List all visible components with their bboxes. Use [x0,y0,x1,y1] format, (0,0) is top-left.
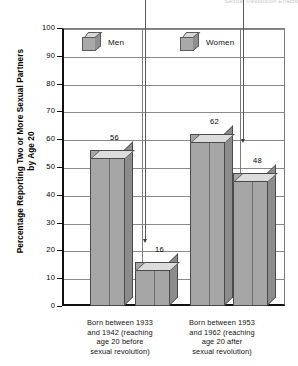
cube-face-front [180,37,194,51]
x-category-label-2-line-2: and 1962 (reaching [163,328,281,338]
bar-side-face [267,164,276,306]
legend-cube-icon-men [82,32,103,52]
bar-front-face [90,150,125,306]
x-category-label-1-line-3: age 20 before [61,337,179,347]
x-category-label-1-line-1: Born between 1933 [61,318,179,328]
x-category-label-2: Born between 1953and 1962 (reachingage 2… [163,318,281,356]
y-tick-label-80: 80 [29,79,55,88]
leader-line-group2-women-arrowhead [241,139,245,143]
cube-face-side [95,32,101,51]
y-tick-label-30: 30 [29,218,55,227]
y-tick-mark-20 [57,250,62,251]
bar-women-group1 [135,262,170,306]
top-cutoff-text: Sexual Revolution Effects [170,0,298,5]
bar-center-seam [109,151,110,305]
x-category-label-2-line-1: Born between 1953 [163,318,281,328]
y-tick-label-50: 50 [29,162,55,171]
bar-side-face [124,142,133,306]
y-tick-mark-60 [57,139,62,140]
value-label-women-group2: 48 [235,156,280,165]
y-tick-mark-70 [57,111,62,112]
leader-line-group1-women [145,0,146,239]
bar-center-seam [209,135,210,305]
y-tick-label-0: 0 [29,301,55,310]
leader-line-group2-women [243,0,244,139]
x-category-label-2-line-4: sexual revolution) [163,347,281,357]
cube-face-front [82,37,96,51]
chart-container: Sexual Revolution Effects Percentage Rep… [0,0,298,366]
y-tick-label-60: 60 [29,134,55,143]
value-label-men-group2: 62 [192,117,237,126]
bar-center-seam [252,174,253,305]
bar-side-face [169,253,178,306]
y-tick-mark-30 [57,223,62,224]
bar-women-group2 [233,173,268,306]
bar-men-group2 [190,134,225,306]
value-label-men-group1: 56 [92,133,137,142]
legend-item-men[interactable]: Men [82,32,124,52]
bar-men-group1 [90,150,125,306]
x-category-label-1-line-4: sexual revolution) [61,347,179,357]
y-tick-mark-0 [57,306,62,307]
bar-side-face [224,125,233,306]
x-category-label-1-line-2: and 1942 (reaching [61,328,179,338]
x-category-label-1: Born between 1933and 1942 (reachingage 2… [61,318,179,356]
y-tick-label-70: 70 [29,106,55,115]
gridline-100 [64,29,284,30]
legend-cube-icon-women [180,32,201,52]
value-label-women-group1: 16 [137,245,182,254]
y-tick-mark-10 [57,278,62,279]
gridline-80 [64,85,284,86]
bar-front-face [233,173,268,306]
y-tick-label-100: 100 [29,23,55,32]
y-tick-label-90: 90 [29,51,55,60]
bar-front-face [190,134,225,306]
y-tick-label-10: 10 [29,273,55,282]
y-tick-mark-80 [57,84,62,85]
y-tick-label-40: 40 [29,190,55,199]
y-tick-label-20: 20 [29,245,55,254]
legend-item-women[interactable]: Women [180,32,234,52]
legend-label-men: Men [108,38,124,47]
y-tick-mark-100 [57,28,62,29]
x-category-label-2-line-3: age 20 after [163,337,281,347]
gridline-90 [64,57,284,58]
y-tick-mark-50 [57,167,62,168]
cube-face-side [193,32,199,51]
leader-line-group1-women-arrowhead [143,239,147,243]
legend-label-women: Women [206,38,234,47]
y-tick-mark-90 [57,56,62,57]
y-tick-mark-40 [57,195,62,196]
gridline-70 [64,112,284,113]
